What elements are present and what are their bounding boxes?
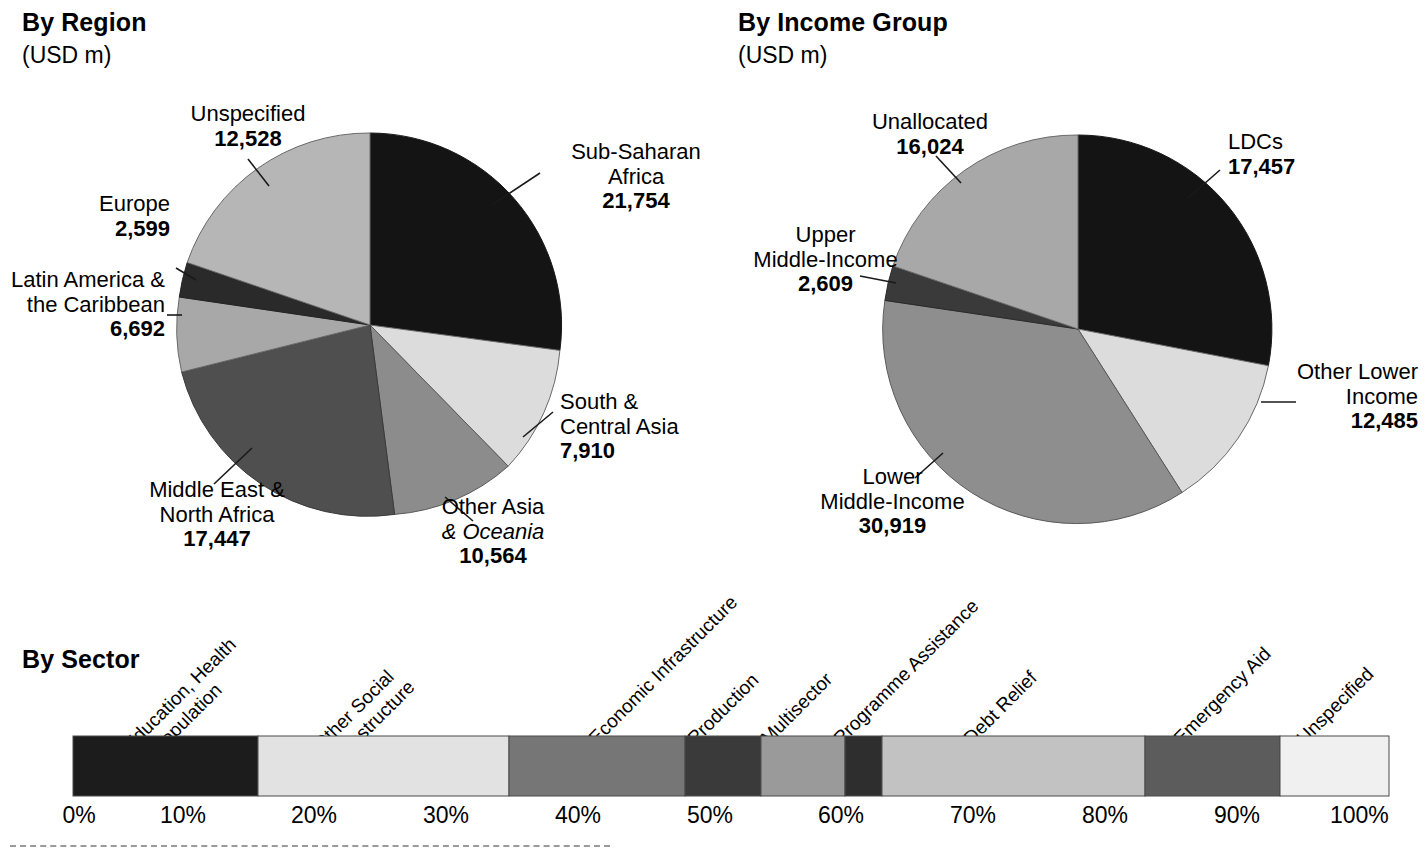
income-label-ldcs: LDCs 17,457 — [1228, 130, 1378, 179]
axis-tick-0: 0% — [53, 802, 105, 829]
income-label-unallocated: Unallocated 16,024 — [845, 110, 1015, 159]
region-label-other-asia: Other Asia & Oceania 10,564 — [413, 495, 573, 569]
axis-tick-40: 40% — [547, 802, 609, 829]
bar-segment-education-health-population — [73, 736, 258, 796]
label-text-2: Africa — [608, 164, 664, 189]
label-text-1: Latin America & — [11, 267, 165, 292]
label-value: 12,528 — [173, 127, 323, 152]
axis-tick-50: 50% — [679, 802, 741, 829]
sector-label-programme-assistance: Programme Assistance — [830, 595, 984, 749]
income-label-other-lower-income: Other Lower Income 12,485 — [1248, 360, 1418, 434]
label-value: 2,609 — [738, 272, 913, 297]
bar-segment-production — [685, 736, 761, 796]
axis-tick-10: 10% — [152, 802, 214, 829]
bar-segment-multisector — [761, 736, 845, 796]
sector-panel-title: By Sector — [22, 645, 140, 674]
label-text-1: Other Lower — [1297, 359, 1418, 384]
label-text: LDCs — [1228, 129, 1283, 154]
region-label-latin-america: Latin America & the Caribbean 6,692 — [10, 268, 165, 342]
bar-segment-economic-infrastructure — [509, 736, 685, 796]
sector-stacked-bar — [0, 728, 1428, 852]
label-text-1: Other Asia — [442, 494, 545, 519]
region-label-sub-saharan: Sub-Saharan Africa 21,754 — [546, 140, 726, 214]
footer-dashed-rule — [10, 845, 610, 847]
label-value: 16,024 — [845, 135, 1015, 160]
axis-tick-70: 70% — [942, 802, 1004, 829]
axis-tick-80: 80% — [1074, 802, 1136, 829]
label-text-2: Middle-Income — [753, 247, 897, 272]
label-value: 21,754 — [546, 189, 726, 214]
axis-tick-60: 60% — [810, 802, 872, 829]
label-text-1: Sub-Saharan — [571, 139, 701, 164]
axis-tick-90: 90% — [1206, 802, 1268, 829]
label-text-2: North Africa — [160, 502, 275, 527]
income-label-lower-middle: Lower Middle-Income 30,919 — [800, 465, 985, 539]
label-text: Unspecified — [191, 101, 306, 126]
region-pie-slices — [177, 133, 562, 516]
label-text-2: Central Asia — [560, 414, 679, 439]
region-label-unspecified: Unspecified 12,528 — [173, 102, 323, 151]
label-text-1: South & — [560, 389, 638, 414]
label-text: Unallocated — [872, 109, 988, 134]
label-text-1: Lower — [863, 464, 923, 489]
label-value: 12,485 — [1248, 409, 1418, 434]
bar-segment-programme-assistance — [845, 736, 882, 796]
region-label-middle-east: Middle East & North Africa 17,447 — [132, 478, 302, 552]
label-text-1: Middle East & — [149, 477, 285, 502]
sector-bar-segments — [73, 736, 1389, 796]
pie-slice-sub-saharan — [370, 133, 562, 350]
bar-segment-unspecified-sector — [1280, 736, 1389, 796]
region-label-europe: Europe 2,599 — [40, 192, 170, 241]
bar-segment-emergency-aid — [1145, 736, 1280, 796]
label-text: Europe — [99, 191, 170, 216]
label-text-2: Middle-Income — [820, 489, 964, 514]
axis-tick-100: 100% — [1330, 802, 1410, 829]
label-value: 17,447 — [132, 527, 302, 552]
label-line-1: Programme Assistance — [830, 595, 984, 749]
label-value: 10,564 — [413, 544, 573, 569]
label-text-2: & Oceania — [442, 519, 545, 544]
label-text-2: the Caribbean — [27, 292, 165, 317]
label-text-1: Upper — [796, 222, 856, 247]
label-value: 17,457 — [1228, 155, 1378, 180]
label-value: 30,919 — [800, 514, 985, 539]
label-value: 6,692 — [10, 317, 165, 342]
bar-segment-other-social-infrastructure — [258, 736, 509, 796]
leader-line-unallocated — [936, 156, 961, 183]
axis-tick-30: 30% — [415, 802, 477, 829]
label-value: 2,599 — [40, 217, 170, 242]
bar-segment-debt-relief — [882, 736, 1145, 796]
axis-tick-20: 20% — [283, 802, 345, 829]
income-label-upper-middle: Upper Middle-Income 2,609 — [738, 223, 913, 297]
label-text-2: Income — [1346, 384, 1418, 409]
figure-canvas: By Region (USD m) — [0, 0, 1428, 852]
